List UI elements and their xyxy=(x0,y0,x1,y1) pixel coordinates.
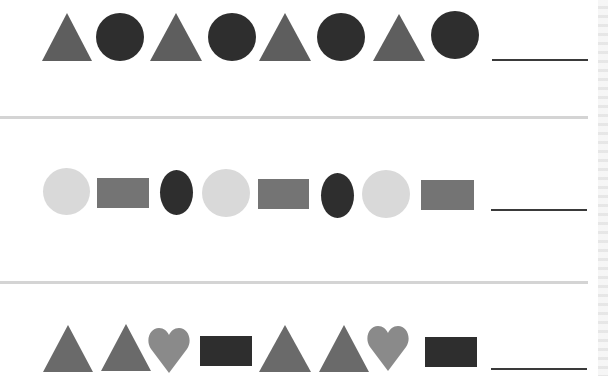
circle-shape xyxy=(96,13,144,61)
dark-rectangle-shape xyxy=(200,336,252,366)
page-edge xyxy=(598,0,608,376)
row-divider xyxy=(0,116,588,119)
answer-blank-2[interactable] xyxy=(491,209,587,211)
circle-shape xyxy=(431,11,479,59)
dark-rectangle-shape xyxy=(425,337,477,367)
light-circle-shape xyxy=(43,168,90,215)
triangle-shape xyxy=(259,13,311,61)
row-divider xyxy=(0,281,588,284)
light-circle-shape xyxy=(362,170,410,218)
triangle-shape xyxy=(319,325,369,372)
heart-shape xyxy=(367,325,409,371)
triangle-shape xyxy=(101,324,151,371)
triangle-shape xyxy=(43,325,93,372)
answer-blank-1[interactable] xyxy=(492,59,588,61)
circle-shape xyxy=(317,13,365,61)
circle-shape xyxy=(208,13,256,61)
light-circle-shape xyxy=(202,169,250,217)
heart-shape xyxy=(148,327,190,373)
rectangle-shape xyxy=(97,178,149,208)
triangle-shape xyxy=(259,325,311,372)
dark-oval-shape xyxy=(160,170,193,215)
answer-blank-3[interactable] xyxy=(491,368,587,370)
dark-oval-shape xyxy=(321,173,354,218)
triangle-shape xyxy=(150,13,202,61)
triangle-shape xyxy=(42,13,92,61)
rectangle-shape xyxy=(258,179,309,209)
rectangle-shape xyxy=(421,180,474,210)
triangle-shape xyxy=(373,14,425,61)
